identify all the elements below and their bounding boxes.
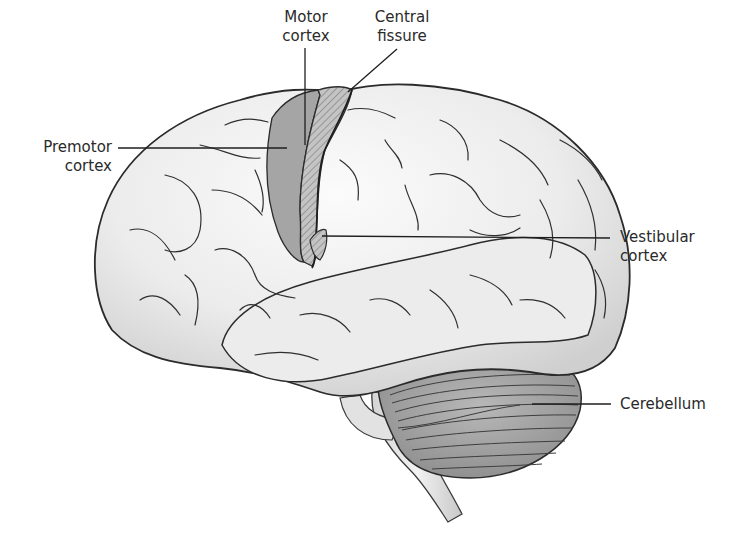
label-central-fissure: Central fissure [370,8,434,46]
label-motor-cortex-line2: cortex [278,27,334,46]
label-premotor-cortex-line2: cortex [20,157,112,176]
label-central-fissure-line1: Central [370,8,434,27]
label-vestibular-cortex-line2: cortex [620,247,730,266]
label-cerebellum: Cerebellum [620,395,730,414]
label-vestibular-cortex: Vestibular cortex [620,228,730,266]
label-motor-cortex-line1: Motor [278,8,334,27]
cerebrum [95,84,630,396]
label-premotor-cortex-line1: Premotor [20,138,112,157]
brain-diagram [0,0,748,550]
label-vestibular-cortex-line1: Vestibular [620,228,730,247]
label-central-fissure-line2: fissure [370,27,434,46]
label-premotor-cortex: Premotor cortex [20,138,112,176]
label-motor-cortex: Motor cortex [278,8,334,46]
label-cerebellum-line1: Cerebellum [620,395,730,414]
